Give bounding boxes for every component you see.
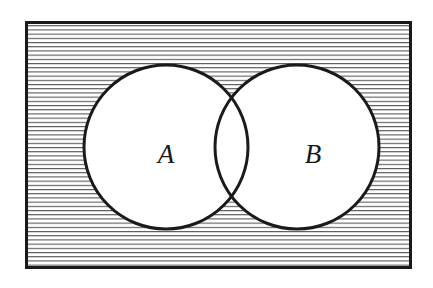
set-b-label: B: [305, 139, 322, 169]
set-a-label: A: [156, 139, 175, 169]
venn-diagram-figure: A B: [0, 0, 433, 288]
venn-diagram-canvas: A B: [0, 0, 433, 288]
